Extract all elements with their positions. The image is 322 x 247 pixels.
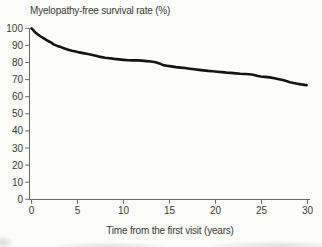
x-tick-label: 15 — [164, 205, 176, 216]
x-axis-label: Time from the first visit (years) — [30, 225, 310, 236]
y-tick-label: 60 — [12, 91, 24, 102]
x-tick-label: 5 — [75, 205, 81, 216]
x-tick-label: 0 — [29, 205, 35, 216]
x-tick-label: 30 — [302, 205, 314, 216]
y-tick-label: 10 — [12, 177, 24, 188]
y-tick-label: 100 — [6, 23, 23, 34]
y-tick-label: 30 — [12, 143, 24, 154]
survival-chart-plot: 0102030405060708090100 051015202530 — [0, 0, 322, 247]
y-tick-label: 0 — [17, 194, 23, 205]
y-tick-label: 20 — [12, 160, 24, 171]
survival-chart-figure: Myelopathy-free survival rate (%) 010203… — [0, 0, 322, 247]
y-tick-label: 40 — [12, 125, 24, 136]
survival-curve — [32, 28, 307, 85]
axes — [30, 28, 311, 199]
x-tick-label: 20 — [210, 205, 222, 216]
y-tick-label: 50 — [12, 108, 24, 119]
y-tick-label: 70 — [12, 74, 24, 85]
x-axis-ticks: 051015202530 — [29, 200, 314, 217]
y-tick-label: 80 — [12, 57, 24, 68]
x-tick-label: 25 — [256, 205, 268, 216]
x-tick-label: 10 — [118, 205, 130, 216]
y-axis-ticks: 0102030405060708090100 — [6, 23, 29, 205]
y-tick-label: 90 — [12, 40, 24, 51]
